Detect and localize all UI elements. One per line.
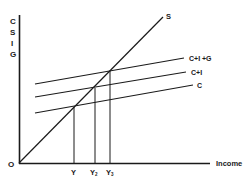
- y-axis-label-c: C: [10, 17, 16, 26]
- origin-label: O: [8, 160, 14, 169]
- savings-line: [19, 17, 163, 163]
- x-axis-label: Income: [216, 159, 242, 168]
- y-axis-label-s: S: [10, 28, 16, 37]
- equilibrium-label-y3: Y3: [106, 168, 114, 177]
- savings-line-label: S: [166, 12, 171, 21]
- equilibrium-label-y2: Y2: [90, 168, 98, 177]
- cig-line-label: C+I +G: [189, 55, 212, 62]
- y-axis-label-g: G: [10, 50, 16, 59]
- ci-line-label: C+I: [191, 69, 202, 76]
- y-axis-label-i: I: [11, 39, 13, 48]
- equilibrium-label-y: Y: [71, 168, 76, 177]
- keynesian-cross-diagram: C S I G O Income S C+I +G C+I C Y Y2 Y3: [0, 0, 251, 180]
- c-line-label: C: [197, 82, 202, 89]
- c-line: [35, 85, 193, 113]
